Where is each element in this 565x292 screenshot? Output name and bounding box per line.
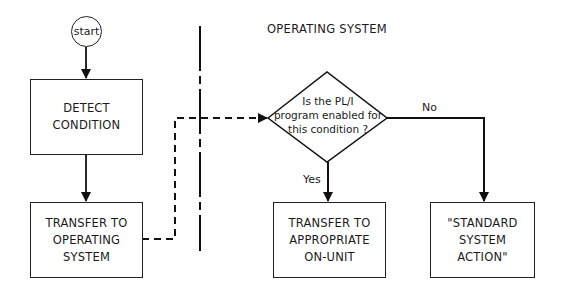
transfer-to-os-box: TRANSFER TO OPERATING SYSTEM: [30, 202, 143, 278]
transfer-on-unit-box: TRANSFER TO APPROPRIATE ON-UNIT: [273, 202, 386, 278]
start-node: start: [71, 16, 102, 47]
transfer-on-unit-label: TRANSFER TO APPROPRIATE ON-UNIT: [288, 215, 370, 266]
transfer-to-os-label: TRANSFER TO OPERATING SYSTEM: [45, 215, 127, 266]
edge-decision-standard: [387, 118, 484, 201]
edge-transfer-decision: [142, 118, 267, 239]
detect-condition-box: DETECT CONDITION: [30, 79, 143, 155]
yes-label: Yes: [303, 173, 321, 186]
no-label: No: [422, 101, 437, 114]
operating-system-heading: OPERATING SYSTEM: [267, 22, 387, 36]
standard-system-action-label: "STANDARD SYSTEM ACTION": [447, 215, 517, 266]
detect-condition-label: DETECT CONDITION: [53, 100, 121, 134]
standard-system-action-box: "STANDARD SYSTEM ACTION": [430, 202, 535, 278]
decision-label: Is the PL/I program enabled for this con…: [270, 94, 386, 136]
start-label: start: [74, 25, 100, 38]
